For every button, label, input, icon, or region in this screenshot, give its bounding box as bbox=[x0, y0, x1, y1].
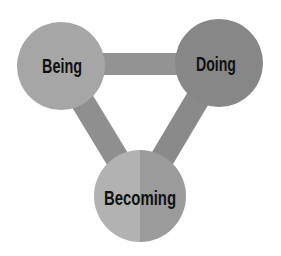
connector-being-doing bbox=[95, 53, 185, 75]
node-doing: Doing bbox=[175, 19, 263, 107]
node-becoming: Becoming bbox=[94, 150, 186, 242]
being-label: Being bbox=[42, 55, 82, 77]
being-doing-becoming-diagram: Being Doing Becoming bbox=[0, 0, 281, 256]
node-being: Being bbox=[17, 22, 105, 110]
doing-label: Doing bbox=[196, 53, 236, 75]
becoming-label: Becoming bbox=[104, 187, 176, 209]
